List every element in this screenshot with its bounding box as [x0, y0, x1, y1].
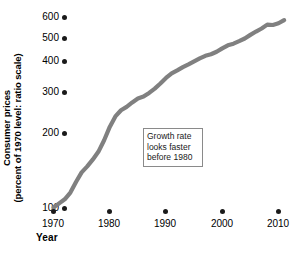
y-tick-label: 400: [36, 55, 59, 67]
y-tick-500: 500: [36, 32, 67, 44]
growth-rate-annotation: Growth rate looks faster before 1980: [143, 128, 203, 167]
x-tick-dot-icon: [163, 209, 168, 214]
y-axis-title-line1: Consumer prices: [1, 54, 13, 203]
y-axis-title-line2: (percent of 1970 level: ratio scale): [12, 54, 24, 203]
x-axis-title: Year: [36, 232, 58, 243]
y-tick-label: 500: [36, 32, 59, 44]
y-tick-dot-icon: [62, 36, 67, 41]
x-tick-2000: 2000: [200, 209, 244, 229]
y-tick-600: 600: [36, 11, 67, 23]
x-tick-label: 2010: [256, 218, 296, 229]
y-tick-dot-icon: [62, 90, 67, 95]
x-tick-dot-icon: [107, 209, 112, 214]
y-tick-300: 300: [36, 86, 67, 98]
x-tick-dot-icon: [220, 209, 225, 214]
y-tick-400: 400: [36, 55, 67, 67]
consumer-prices-line: [54, 20, 285, 207]
consumer-prices-chart: Consumer prices (percent of 1970 level: …: [0, 0, 296, 256]
y-tick-label: 200: [36, 127, 59, 139]
x-tick-1990: 1990: [143, 209, 187, 229]
x-tick-label: 2000: [200, 218, 244, 229]
x-tick-label: 1970: [31, 218, 75, 229]
x-tick-dot-icon: [51, 209, 56, 214]
x-tick-2010: 2010: [256, 209, 296, 229]
annotation-line-2: looks faster: [147, 142, 199, 153]
y-tick-dot-icon: [62, 131, 67, 136]
annotation-line-1: Growth rate: [147, 131, 199, 142]
y-tick-dot-icon: [62, 59, 67, 64]
x-tick-label: 1980: [87, 218, 131, 229]
x-tick-1970: 1970: [31, 209, 75, 229]
y-tick-label: 600: [36, 11, 59, 23]
annotation-line-3: before 1980: [147, 152, 199, 163]
y-tick-dot-icon: [62, 15, 67, 20]
x-tick-1980: 1980: [87, 209, 131, 229]
y-tick-label: 300: [36, 86, 59, 98]
y-tick-200: 200: [36, 127, 67, 139]
x-tick-label: 1990: [143, 218, 187, 229]
x-tick-dot-icon: [276, 209, 281, 214]
